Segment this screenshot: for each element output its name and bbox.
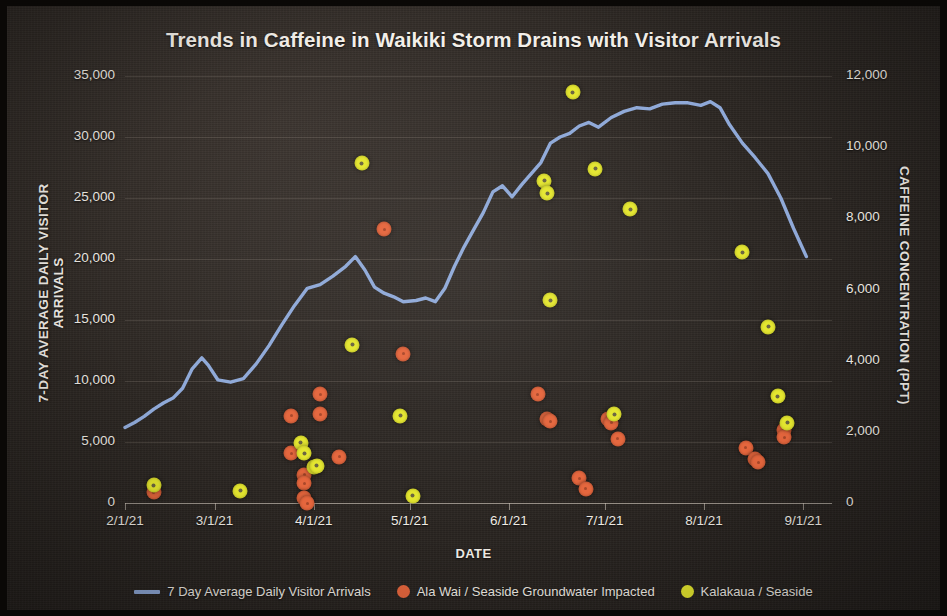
legend-dot-swatch <box>681 585 694 598</box>
legend-label: Ala Wai / Seaside Groundwater Impacted <box>417 584 655 599</box>
kalakaua-point <box>405 488 420 503</box>
ala-wai-point <box>313 387 328 402</box>
ala-wai-point <box>284 408 299 423</box>
kalakaua-point <box>540 186 555 201</box>
chart-panel: Trends in Caffeine in Waikiki Storm Drai… <box>7 6 940 610</box>
kalakaua-point <box>607 407 622 422</box>
kalakaua-point <box>761 319 776 334</box>
kalakaua-point <box>623 202 638 217</box>
kalakaua-point <box>297 446 312 461</box>
legend-line-swatch <box>134 590 160 594</box>
ala-wai-point <box>777 430 792 445</box>
kalakaua-point <box>354 156 369 171</box>
kalakaua-point <box>588 161 603 176</box>
kalakaua-point <box>146 478 161 493</box>
ala-wai-point <box>543 414 558 429</box>
kalakaua-point <box>345 337 360 352</box>
kalakaua-point <box>565 85 580 100</box>
kalakaua-point <box>233 483 248 498</box>
ala-wai-point <box>530 387 545 402</box>
ala-wai-point <box>578 481 593 496</box>
ala-wai-point <box>377 222 392 237</box>
kalakaua-point <box>309 458 324 473</box>
x-axis-line <box>125 503 832 504</box>
kalakaua-point <box>393 408 408 423</box>
ala-wai-point <box>297 476 312 491</box>
legend-label: Kalakaua / Seaside <box>701 584 813 599</box>
ala-wai-point <box>751 455 766 470</box>
ala-wai-point <box>610 431 625 446</box>
legend-item: 7 Day Average Daily Visitor Arrivals <box>134 584 370 599</box>
ala-wai-point <box>396 346 411 361</box>
scatter-points <box>125 76 832 503</box>
chart-page: Trends in Caffeine in Waikiki Storm Drai… <box>0 0 947 616</box>
kalakaua-point <box>780 415 795 430</box>
legend-item: Ala Wai / Seaside Groundwater Impacted <box>397 584 655 599</box>
ala-wai-point <box>313 407 328 422</box>
kalakaua-point <box>770 389 785 404</box>
kalakaua-point <box>543 293 558 308</box>
legend-item: Kalakaua / Seaside <box>681 584 813 599</box>
legend-dot-swatch <box>397 585 410 598</box>
ala-wai-point <box>332 449 347 464</box>
chart-legend: 7 Day Average Daily Visitor ArrivalsAla … <box>7 584 940 599</box>
ala-wai-point <box>300 496 315 511</box>
kalakaua-point <box>735 245 750 260</box>
plot-area <box>125 76 832 503</box>
legend-label: 7 Day Average Daily Visitor Arrivals <box>167 584 370 599</box>
